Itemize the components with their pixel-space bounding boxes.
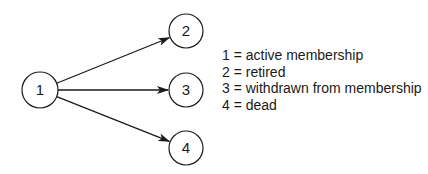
node-2: 2 bbox=[169, 14, 203, 48]
legend-item-3: 3 = withdrawn from membership bbox=[222, 80, 422, 97]
edge-1-to-4 bbox=[57, 97, 170, 142]
edge-1-to-2 bbox=[57, 38, 170, 84]
legend-item-2: 2 = retired bbox=[222, 64, 422, 81]
node-4: 4 bbox=[169, 131, 203, 165]
legend: 1 = active membership 2 = retired 3 = wi… bbox=[222, 47, 422, 113]
node-label: 1 bbox=[36, 81, 44, 98]
node-1: 1 bbox=[22, 72, 58, 108]
legend-item-4: 4 = dead bbox=[222, 97, 422, 114]
node-label: 3 bbox=[182, 81, 190, 98]
node-label: 4 bbox=[182, 139, 190, 156]
legend-item-1: 1 = active membership bbox=[222, 47, 422, 64]
node-3: 3 bbox=[169, 73, 203, 107]
node-label: 2 bbox=[182, 22, 190, 39]
